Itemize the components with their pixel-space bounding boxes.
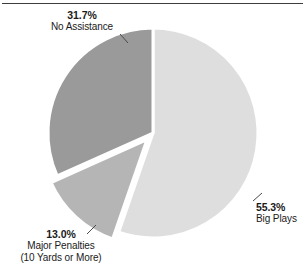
callout-no-assistance: 31.7% No Assistance [42, 9, 122, 33]
pie-chart-figure: 31.7% No Assistance 55.3% Big Plays 13.0… [0, 0, 305, 276]
leader-line-big-plays [253, 193, 262, 201]
no-assistance-label: No Assistance [42, 21, 122, 33]
no-assistance-percent: 31.7% [42, 9, 122, 21]
major-penalties-label: Major Penalties [2, 240, 120, 252]
callout-major-penalties: 13.0% Major Penalties (10 Yards or More) [2, 228, 120, 264]
callout-big-plays: 55.3% Big Plays [256, 201, 305, 225]
big-plays-percent: 55.3% [256, 201, 305, 213]
big-plays-label: Big Plays [256, 213, 305, 225]
major-penalties-sublabel: (10 Yards or More) [2, 252, 120, 264]
major-penalties-percent: 13.0% [2, 228, 120, 240]
